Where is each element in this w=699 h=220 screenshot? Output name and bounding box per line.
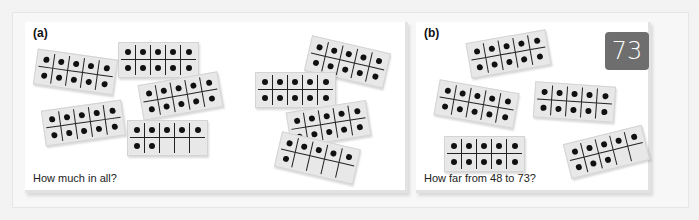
- counter-dot-icon: [307, 95, 313, 101]
- counter-dot-icon: [262, 79, 268, 85]
- ten-frame-cell: [462, 139, 477, 154]
- ten-frame-cell: [273, 75, 288, 90]
- counter-dot-icon: [586, 144, 593, 151]
- panel-b-label: (b): [424, 26, 439, 40]
- counter-dot-icon: [342, 66, 349, 73]
- ten-frame-cell: [96, 75, 113, 92]
- counter-dot-icon: [456, 105, 463, 112]
- ten-frame: [127, 120, 208, 156]
- counter-dot-icon: [307, 79, 313, 85]
- ten-frame-cell: [507, 139, 522, 154]
- counter-dot-icon: [43, 56, 50, 63]
- counter-dot-icon: [491, 61, 498, 68]
- counter-dot-icon: [601, 108, 607, 114]
- counter-dot-icon: [71, 76, 78, 83]
- counter-dot-icon: [277, 79, 283, 85]
- ten-frame-cell: [121, 45, 136, 60]
- ten-frame-cell: [597, 89, 613, 105]
- ten-frame-cell: [581, 103, 597, 119]
- ten-frame-cell: [477, 139, 492, 154]
- counter-dot-icon: [488, 45, 495, 52]
- ten-frame-cell: [203, 89, 220, 106]
- counter-dot-icon: [178, 100, 185, 107]
- counter-dot-icon: [96, 125, 103, 132]
- counter-dot-icon: [301, 143, 308, 150]
- counter-dot-icon: [195, 127, 201, 133]
- ten-frame-cell: [145, 123, 160, 138]
- counter-dot-icon: [444, 87, 451, 94]
- counter-dot-icon: [208, 95, 215, 102]
- counter-dot-icon: [338, 110, 345, 117]
- counter-dot-icon: [496, 143, 502, 149]
- counter-dot-icon: [140, 65, 146, 71]
- counter-dot-icon: [64, 114, 71, 121]
- counter-dot-icon: [356, 123, 363, 130]
- counter-dot-icon: [146, 90, 153, 97]
- counter-dot-icon: [541, 89, 547, 95]
- ten-frame-cell: [145, 138, 160, 153]
- ten-frame: [274, 131, 361, 184]
- counter-dot-icon: [481, 159, 487, 165]
- counter-dot-icon: [466, 143, 472, 149]
- counter-dot-icon: [585, 107, 591, 113]
- ten-frame-cell: [596, 104, 612, 120]
- counter-dot-icon: [353, 108, 360, 115]
- ten-frame-cell: [582, 88, 598, 104]
- ten-frame: [255, 72, 336, 108]
- counter-dot-icon: [140, 49, 146, 55]
- counter-dot-icon: [501, 113, 508, 120]
- counter-dot-icon: [149, 143, 155, 149]
- counter-dot-icon: [41, 72, 48, 79]
- ten-frame-cell: [121, 60, 136, 75]
- ten-frame-cell: [462, 154, 477, 169]
- counter-dot-icon: [540, 104, 546, 110]
- counter-dot-icon: [170, 49, 176, 55]
- ten-frame-cell: [477, 154, 492, 169]
- counter-dot-icon: [85, 78, 92, 85]
- ten-frame-cell: [507, 154, 522, 169]
- ten-frame-cell: [136, 45, 151, 60]
- counter-dot-icon: [286, 140, 293, 147]
- counter-dot-icon: [175, 85, 182, 92]
- counter-dot-icon: [489, 95, 496, 102]
- counter-dot-icon: [282, 155, 289, 162]
- counter-dot-icon: [323, 79, 329, 85]
- counter-dot-icon: [496, 159, 502, 165]
- counter-dot-icon: [160, 87, 167, 94]
- counter-dot-icon: [79, 112, 86, 119]
- ten-frame: [444, 136, 525, 172]
- ten-frame-cell: [366, 67, 384, 85]
- ten-frame-cell: [190, 123, 205, 138]
- ten-frame-cell: [447, 139, 462, 154]
- counter-dot-icon: [615, 137, 622, 144]
- ten-frame-cell: [175, 138, 190, 153]
- counter-dot-icon: [148, 105, 155, 112]
- counter-dot-icon: [375, 57, 382, 64]
- counter-dot-icon: [292, 79, 298, 85]
- counter-dot-icon: [555, 105, 561, 111]
- counter-dot-icon: [292, 95, 298, 101]
- counter-dot-icon: [49, 116, 56, 123]
- counter-dot-icon: [323, 95, 329, 101]
- ten-frame-cell: [166, 45, 181, 60]
- counter-dot-icon: [109, 108, 116, 115]
- counter-dot-icon: [51, 131, 58, 138]
- counter-dot-icon: [602, 93, 608, 99]
- counter-dot-icon: [345, 50, 352, 57]
- counter-dot-icon: [163, 103, 170, 110]
- counter-dot-icon: [134, 143, 140, 149]
- counter-dot-icon: [360, 54, 367, 61]
- counter-dot-icon: [575, 163, 582, 170]
- counter-dot-icon: [630, 133, 637, 140]
- counter-dot-icon: [101, 80, 108, 87]
- counter-dot-icon: [190, 82, 197, 89]
- counter-dot-icon: [155, 49, 161, 55]
- counter-dot-icon: [93, 110, 100, 117]
- counter-dot-icon: [58, 59, 65, 66]
- ten-frame: [433, 79, 519, 129]
- counter-dot-icon: [134, 127, 140, 133]
- ten-frame-cell: [628, 143, 646, 161]
- ten-frame-cell: [566, 101, 582, 117]
- counter-dot-icon: [330, 150, 337, 157]
- counter-dot-icon: [466, 159, 472, 165]
